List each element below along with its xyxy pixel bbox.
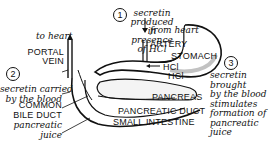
small-intestine-label: SMALL INTESTINE xyxy=(113,118,195,127)
hcl-label-2: HCl xyxy=(168,72,184,81)
step-2-badge: 2 xyxy=(6,67,20,81)
step-3-text: secretin brought by the blood stimulates… xyxy=(210,71,267,138)
secretin-diagram: 1 secretin produced in presence of HCl t… xyxy=(0,0,269,143)
from-heart-label: from heart xyxy=(150,26,199,35)
to-heart-label: to heart xyxy=(36,32,72,41)
pancreatic-duct-label: PANCREATIC DUCT xyxy=(118,107,205,116)
pancreatic-juice-label: pancreatic juice xyxy=(0,120,62,140)
artery-label: ARTERY xyxy=(150,40,187,49)
portal-vein-label: PORTAL VEIN xyxy=(20,48,64,66)
arrow-left-icon xyxy=(146,64,150,68)
step-3-badge: 3 xyxy=(224,56,238,70)
stomach-label: STOMACH xyxy=(171,52,217,61)
pancreas-label: PANCREAS xyxy=(152,93,202,102)
common-bile-duct-label: COMMON BILE DUCT xyxy=(0,100,62,120)
